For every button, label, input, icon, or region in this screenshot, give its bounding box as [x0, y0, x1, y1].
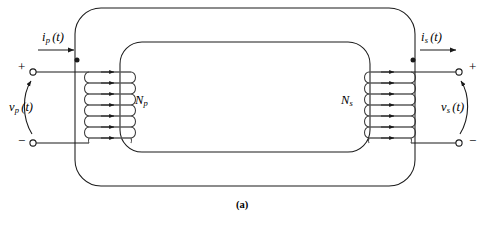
primary-voltage-symbol: v	[9, 100, 15, 114]
secondary-polarity-dot-icon	[411, 58, 416, 63]
primary-loop-arc	[131, 127, 135, 138]
primary-circuit	[24, 50, 135, 146]
secondary-negative-sign: −	[469, 134, 476, 147]
primary-loop-arc	[131, 116, 135, 127]
transformer-core	[75, 8, 415, 186]
secondary-voltage-arg: (t)	[450, 100, 464, 114]
secondary-winding	[365, 72, 416, 143]
transformer-figure: ip(t) is(t) vp(t) vs(t) Np Ns + − + − (a…	[0, 0, 492, 226]
primary-loop-arc	[85, 83, 89, 94]
primary-negative-terminal	[30, 140, 36, 146]
secondary-positive-sign: +	[469, 60, 476, 73]
primary-voltage-arg: (t)	[19, 100, 33, 114]
primary-turns-label: Np	[135, 94, 148, 108]
figure-caption: (a)	[236, 200, 248, 211]
primary-turns-subscript: p	[143, 98, 147, 108]
secondary-loop-arc	[365, 83, 369, 94]
secondary-loop-arc	[365, 127, 369, 138]
primary-loop-arc	[85, 116, 89, 127]
primary-winding	[85, 72, 136, 143]
primary-polarity-dot-icon	[75, 58, 80, 63]
secondary-negative-terminal	[456, 140, 462, 146]
secondary-turns-subscript: s	[349, 98, 352, 108]
secondary-loop-arc	[365, 94, 369, 105]
transformer-diagram-canvas	[0, 0, 492, 226]
primary-current-arg: (t)	[50, 30, 64, 44]
primary-loop-arc	[85, 94, 89, 105]
secondary-circuit	[365, 50, 468, 146]
secondary-loop-arc	[365, 105, 369, 116]
primary-loop-arc	[131, 72, 135, 83]
primary-positive-sign: +	[18, 60, 25, 73]
primary-current-label: ip(t)	[42, 31, 64, 45]
secondary-positive-terminal	[456, 69, 462, 75]
secondary-turns-label: Ns	[341, 94, 353, 108]
primary-loop-arc	[85, 105, 89, 116]
primary-positive-terminal	[30, 69, 36, 75]
secondary-loop-arc	[365, 72, 369, 83]
secondary-current-label: is(t)	[421, 31, 442, 45]
primary-negative-sign: −	[18, 134, 25, 147]
secondary-loop-arc	[365, 116, 369, 127]
secondary-voltage-symbol: v	[441, 100, 447, 114]
primary-voltage-label: vp(t)	[9, 101, 33, 115]
core-outer-outline	[75, 8, 415, 186]
secondary-current-arg: (t)	[428, 30, 442, 44]
primary-loop-arc	[85, 72, 89, 83]
secondary-voltage-label: vs(t)	[441, 101, 464, 115]
core-inner-window	[120, 42, 370, 152]
primary-loop-arc	[85, 127, 89, 138]
